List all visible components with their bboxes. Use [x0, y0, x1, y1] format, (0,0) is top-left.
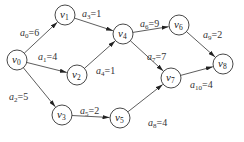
node-v3: v3 [52, 105, 72, 125]
node-v2: v2 [67, 65, 87, 85]
edge-label-a2: a2=5 [9, 91, 28, 104]
aoe-network-diagram: v0v1v2v3v4v5v6v7v8 a0=6a1=4a2=5a3=1a4=1a… [0, 0, 244, 142]
edge-label-a10: a10=4 [190, 79, 213, 92]
edge-label-a0: a0=6 [20, 27, 39, 40]
node-v7: v7 [161, 68, 181, 88]
edge-label-a7: a7=7 [147, 51, 166, 64]
edge-label-a9: a9=2 [203, 29, 222, 42]
node-v6: v6 [169, 15, 189, 35]
edge-label-a8: a8=4 [148, 117, 167, 130]
node-v5: v5 [110, 108, 130, 128]
node-v1: v1 [55, 5, 75, 25]
edge-a1-arrow [27, 62, 67, 72]
edge-a8-arrow [128, 84, 163, 111]
edge-label-a3: a3=1 [82, 8, 101, 21]
edge-a10-arrow [181, 67, 213, 76]
edge-label-a1: a1=4 [38, 51, 57, 64]
nodes-group: v0v1v2v3v4v5v6v7v8 [7, 5, 233, 128]
node-v4: v4 [113, 24, 133, 44]
edge-label-a4: a4=1 [96, 65, 115, 78]
node-v8: v8 [213, 54, 233, 74]
edge-a3-arrow [75, 18, 114, 31]
node-v0: v0 [7, 50, 27, 70]
